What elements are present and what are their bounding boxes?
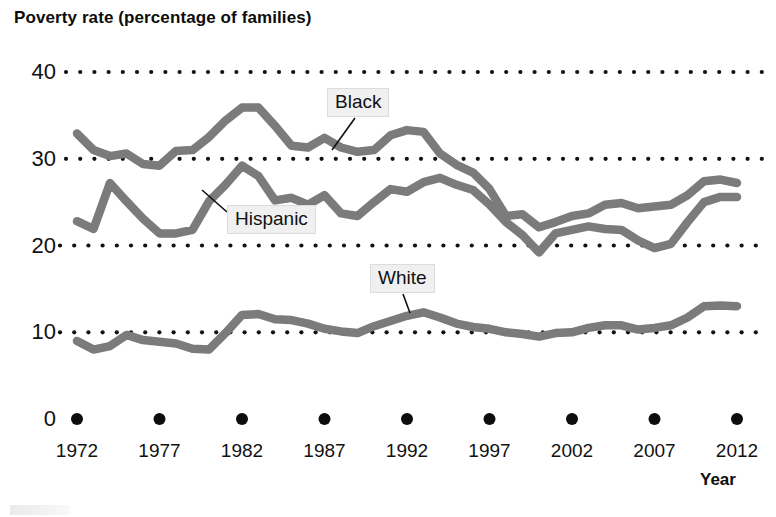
page-artifact [10,505,70,515]
x-axis-tick-label: 2007 [620,440,690,462]
y-axis-tick-label: 10 [12,319,56,345]
x-tick-dot [154,413,166,425]
x-tick-dot [566,413,578,425]
x-tick-dot [484,413,496,425]
y-axis-tick-label: 30 [12,146,56,172]
x-axis-title: Year [700,470,736,490]
series-label-black: Black [327,88,389,117]
x-axis-tick-label: 2002 [537,440,607,462]
series-lines [77,108,737,350]
x-axis-tick-label: 1977 [125,440,195,462]
x-tick-dot [649,413,661,425]
series-line-white [77,305,737,349]
x-tick-dot [236,413,248,425]
poverty-rate-chart: Poverty rate (percentage of families) 40… [0,0,776,517]
series-line-black [77,108,737,228]
x-axis-tick-label: 1987 [290,440,360,462]
x-axis-tick-label: 1997 [455,440,525,462]
leader-line [403,294,410,313]
x-tick-dot [71,413,83,425]
x-tick-dot [319,413,331,425]
x-tick-dot [731,413,743,425]
y-axis-tick-label: 20 [12,233,56,259]
x-axis-tick-label: 2012 [702,440,772,462]
x-axis-tick-label: 1992 [372,440,442,462]
x-tick-dot [401,413,413,425]
y-axis-tick-label: 40 [12,59,56,85]
x-axis-tick-dots [71,413,743,425]
x-axis-tick-label: 1972 [42,440,112,462]
series-label-white: White [370,264,435,293]
series-label-hispanic: Hispanic [227,205,316,234]
y-axis-tick-label: 0 [12,406,56,432]
x-axis-tick-label: 1982 [207,440,277,462]
